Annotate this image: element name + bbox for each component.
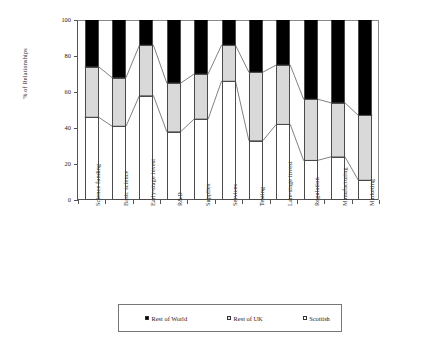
bar-segment-rest-of-uk bbox=[331, 103, 345, 157]
bar-segment-rest-of-uk bbox=[194, 74, 208, 119]
y-tick-label: 60 bbox=[65, 88, 71, 95]
bar-segment-rest-of-world bbox=[304, 20, 318, 99]
bar-column bbox=[222, 20, 236, 200]
white-square-icon bbox=[303, 316, 307, 320]
bar-segment-rest-of-uk bbox=[304, 99, 318, 160]
legend: Rest of World Rest of UK Scottish bbox=[118, 304, 342, 332]
x-tick-mark bbox=[160, 200, 161, 204]
x-axis-category-label: Testing bbox=[258, 187, 265, 206]
bar-segment-rest-of-uk bbox=[167, 83, 181, 132]
x-tick-mark bbox=[270, 200, 271, 204]
y-tick-label: 20 bbox=[65, 160, 71, 167]
y-axis-title: % of Relationships bbox=[21, 14, 28, 134]
bar-segment-rest-of-world bbox=[222, 20, 236, 45]
x-tick-mark bbox=[352, 200, 353, 204]
bar-segment-rest-of-uk bbox=[139, 45, 153, 95]
x-tick-mark bbox=[324, 200, 325, 204]
black-square-icon bbox=[145, 316, 149, 320]
legend-item-rest-of-world: Rest of World bbox=[145, 315, 187, 322]
legend-item-scottish: Scottish bbox=[303, 315, 330, 322]
bar-segment-rest-of-uk bbox=[112, 78, 126, 127]
bar-segment-rest-of-world bbox=[167, 20, 181, 83]
x-axis-category-label: Early-stage invest bbox=[149, 159, 156, 206]
x-axis-category-label: Basic science bbox=[122, 171, 129, 206]
x-axis-category-label: Marketing bbox=[368, 179, 375, 206]
bar-segment-rest-of-world bbox=[194, 20, 208, 74]
bar-column bbox=[249, 20, 263, 200]
y-tick-label: 40 bbox=[65, 124, 71, 131]
x-tick-mark bbox=[215, 200, 216, 204]
x-axis-category-label: Regulation bbox=[313, 177, 320, 206]
y-tick-label: 80 bbox=[65, 52, 71, 59]
x-tick-mark bbox=[242, 200, 243, 204]
bar-segment-rest-of-world bbox=[85, 20, 99, 67]
bar-segment-rest-of-world bbox=[358, 20, 372, 115]
gray-square-icon bbox=[227, 316, 231, 320]
x-tick-mark bbox=[297, 200, 298, 204]
bar-segment-rest-of-uk bbox=[276, 65, 290, 124]
bar-column bbox=[194, 20, 208, 200]
bar-segment-scottish bbox=[222, 81, 236, 200]
x-axis-category-label: Manufacturing bbox=[341, 167, 348, 206]
bar-segment-rest-of-uk bbox=[358, 115, 372, 180]
x-tick-mark bbox=[105, 200, 106, 204]
bar-segment-scottish bbox=[167, 132, 181, 200]
bar-column bbox=[358, 20, 372, 200]
x-axis-category-label: Supplies bbox=[204, 183, 211, 206]
y-tick-label: 100 bbox=[61, 16, 71, 23]
x-axis-category-label: Services bbox=[231, 184, 238, 206]
x-axis-category-label: R&D bbox=[176, 192, 183, 206]
y-tick-label: 0 bbox=[68, 196, 71, 203]
bar-segment-rest-of-world bbox=[112, 20, 126, 78]
bar-segment-rest-of-world bbox=[139, 20, 153, 45]
bar-column bbox=[304, 20, 318, 200]
bar-segment-rest-of-world bbox=[276, 20, 290, 65]
legend-label: Rest of UK bbox=[234, 315, 263, 322]
legend-label: Scottish bbox=[309, 315, 330, 322]
legend-label: Rest of World bbox=[152, 315, 188, 322]
bar-segment-rest-of-uk bbox=[222, 45, 236, 81]
bar-segment-rest-of-uk bbox=[85, 67, 99, 117]
x-axis-category-label: Late-stage invest bbox=[286, 161, 293, 206]
legend-item-rest-of-uk: Rest of UK bbox=[227, 315, 263, 322]
bar-segment-rest-of-world bbox=[331, 20, 345, 103]
x-tick-mark bbox=[133, 200, 134, 204]
chart-container: % of Relationships 020406080100 Science … bbox=[0, 0, 443, 343]
bar-segment-rest-of-world bbox=[249, 20, 263, 72]
x-tick-mark bbox=[78, 200, 79, 204]
x-tick-mark bbox=[187, 200, 188, 204]
x-axis-category-label: Science funding bbox=[94, 164, 101, 206]
bar-column bbox=[167, 20, 181, 200]
x-tick-mark bbox=[379, 200, 380, 204]
bar-segment-rest-of-uk bbox=[249, 72, 263, 140]
